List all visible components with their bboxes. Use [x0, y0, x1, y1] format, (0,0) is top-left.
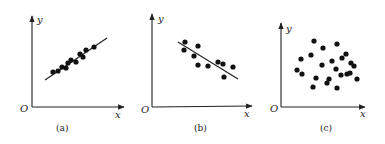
data-point: [311, 38, 316, 43]
data-point: [298, 56, 303, 61]
origin-label: O: [20, 103, 28, 114]
data-point: [308, 52, 313, 57]
x-axis-label: x: [360, 108, 366, 119]
data-point: [354, 76, 359, 81]
data-point: [80, 54, 85, 59]
y-axis-label: y: [285, 23, 292, 34]
caption-c: (c): [320, 123, 332, 133]
data-point: [334, 41, 339, 46]
data-point: [351, 63, 356, 68]
panel-a: y x O (a): [20, 14, 124, 133]
data-point: [320, 45, 325, 50]
data-point: [324, 80, 329, 85]
data-point: [205, 63, 210, 68]
data-point: [338, 72, 343, 77]
x-axis: [152, 106, 252, 107]
fit-line: [178, 42, 238, 79]
data-point: [191, 53, 196, 58]
x-axis-label: x: [115, 109, 121, 120]
data-point: [195, 43, 200, 48]
data-point: [91, 44, 96, 49]
data-points: [50, 44, 96, 74]
x-axis-label: x: [244, 108, 250, 119]
data-point: [63, 65, 68, 70]
data-point: [333, 66, 338, 71]
data-point: [294, 67, 299, 72]
panel-b: y x O (b): [141, 13, 252, 133]
data-point: [319, 62, 324, 67]
data-point: [230, 64, 235, 69]
data-point: [299, 71, 304, 76]
regression-line: [178, 42, 238, 79]
data-point: [181, 47, 186, 52]
data-point: [344, 71, 349, 76]
data-point: [83, 47, 88, 52]
panel-c: y x O (c): [270, 23, 366, 133]
data-points: [181, 39, 235, 79]
caption-a: (a): [56, 123, 68, 133]
caption-b: (b): [194, 123, 207, 133]
origin-label: O: [270, 103, 278, 114]
origin-label: O: [141, 104, 149, 115]
scatter-diagrams: y x O (a) y x O (b) y x O (c): [0, 0, 385, 144]
data-point: [55, 68, 60, 73]
data-point: [215, 59, 220, 64]
data-points: [294, 38, 359, 90]
data-point: [220, 61, 225, 66]
data-point: [195, 62, 200, 67]
data-point: [313, 75, 318, 80]
data-point: [182, 39, 187, 44]
data-point: [310, 84, 315, 89]
y-axis-label: y: [157, 13, 164, 24]
data-point: [339, 55, 344, 60]
data-point: [50, 69, 55, 74]
y-axis-label: y: [36, 14, 43, 25]
data-point: [68, 57, 73, 62]
data-point: [73, 59, 78, 64]
data-point: [343, 51, 348, 56]
data-point: [329, 58, 334, 63]
data-point: [221, 74, 226, 79]
data-point: [334, 85, 339, 90]
